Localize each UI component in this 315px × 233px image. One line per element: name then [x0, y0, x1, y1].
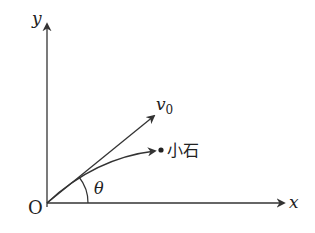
velocity-label: v0: [156, 94, 173, 117]
x-axis-label: x: [289, 192, 299, 212]
angle-arc: [79, 177, 88, 203]
origin-label: O: [28, 197, 43, 218]
angle-label: θ: [94, 179, 104, 198]
y-axis-label: y: [31, 8, 42, 28]
stone-label: 小石: [167, 141, 199, 160]
stone-dot: [158, 147, 163, 152]
projectile-diagram: y x O v0 小石 θ: [0, 0, 315, 233]
